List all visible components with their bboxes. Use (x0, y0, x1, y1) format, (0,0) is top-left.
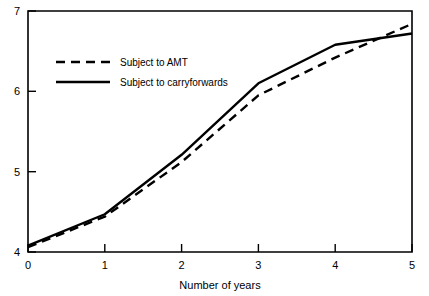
chart-legend: Subject to AMT Subject to carryforwards (56, 57, 228, 88)
x-tick-label-4: 4 (332, 259, 338, 271)
chart-figure: 7 6 5 4 0 1 2 3 4 5 Subject to AMT Subje… (0, 0, 429, 296)
y-tick-label-7: 7 (14, 5, 20, 17)
y-axis-ticks (28, 11, 36, 252)
y-tick-label-5: 5 (14, 166, 20, 178)
series-subject-to-amt (28, 24, 412, 247)
x-tick-label-3: 3 (255, 259, 261, 271)
line-chart: 7 6 5 4 0 1 2 3 4 5 Subject to AMT Subje… (0, 0, 429, 296)
y-tick-label-4: 4 (14, 246, 20, 258)
x-tick-label-0: 0 (25, 259, 31, 271)
x-axis-ticks (28, 244, 412, 252)
data-series-group (28, 24, 412, 247)
axis-spines (28, 11, 412, 252)
axis-frame (28, 11, 412, 252)
legend-label-subject-to-amt: Subject to AMT (120, 57, 188, 68)
x-axis-title: Number of years (179, 279, 261, 291)
series-subject-to-carryforwards (28, 33, 412, 245)
x-tick-label-1: 1 (102, 259, 108, 271)
legend-label-subject-to-carryforwards: Subject to carryforwards (120, 77, 228, 88)
x-tick-label-2: 2 (179, 259, 185, 271)
x-tick-labels: 0 1 2 3 4 5 (25, 259, 415, 271)
y-tick-label-6: 6 (14, 85, 20, 97)
x-tick-label-5: 5 (409, 259, 415, 271)
y-tick-labels: 7 6 5 4 (14, 5, 20, 258)
